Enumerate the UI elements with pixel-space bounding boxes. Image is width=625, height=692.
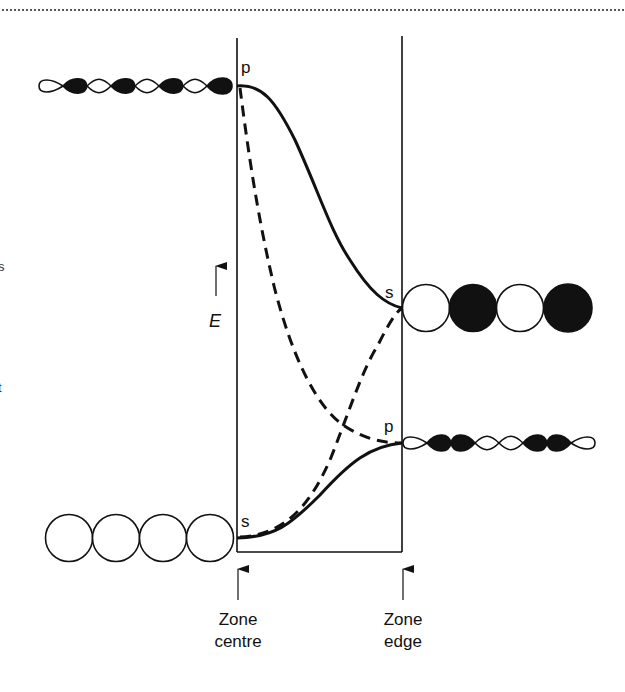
s-orbital-white bbox=[46, 515, 93, 562]
s-orbital-white bbox=[187, 515, 234, 562]
p-lobe-white bbox=[135, 79, 159, 93]
zone-edge-caption-line1: Zone bbox=[363, 609, 443, 631]
s-orbital-white bbox=[497, 285, 544, 332]
edge-s-orbital-chain bbox=[403, 284, 593, 332]
p-lobe-black bbox=[159, 79, 183, 93]
s-orbital-black bbox=[544, 284, 592, 332]
p-lobe-black bbox=[451, 435, 475, 451]
p-lobe-white bbox=[499, 436, 523, 450]
s-orbital-white bbox=[93, 515, 140, 562]
p-lobe-black bbox=[427, 435, 451, 451]
p-lobe-black bbox=[111, 79, 135, 93]
s-orbital-white bbox=[403, 285, 450, 332]
centre-s-orbital-chain bbox=[46, 515, 234, 562]
s-orbital-black bbox=[450, 285, 497, 332]
s-band-solid-curve bbox=[237, 443, 402, 538]
zone-centre-caption-line1: Zone bbox=[198, 609, 278, 631]
p-lobe-black bbox=[547, 435, 571, 451]
zone-centre-caption: Zone centre bbox=[198, 609, 278, 653]
p-band-solid-curve bbox=[237, 86, 402, 308]
zone-edge-caption-line2: edge bbox=[363, 631, 443, 653]
s-orbital-white bbox=[140, 515, 187, 562]
edge-lower-level-label: p bbox=[384, 418, 393, 435]
centre-bottom-level-label: s bbox=[241, 513, 250, 530]
p-lobe-white bbox=[475, 436, 499, 450]
p-lobe-white bbox=[87, 79, 111, 93]
p-lobe-white bbox=[183, 79, 207, 93]
p-band-dashed-curve bbox=[240, 88, 402, 443]
band-diagram bbox=[0, 0, 625, 692]
energy-axis-label: E bbox=[209, 311, 221, 332]
p-lobe-white bbox=[403, 437, 427, 449]
edge-p-orbital-chain bbox=[403, 435, 595, 451]
centre-top-level-label: p bbox=[241, 59, 250, 76]
p-lobe-white bbox=[39, 80, 63, 92]
zone-edge-caption: Zone edge bbox=[363, 609, 443, 653]
p-lobe-black bbox=[523, 435, 547, 451]
zone-centre-caption-line2: centre bbox=[198, 631, 278, 653]
p-lobe-white bbox=[571, 437, 595, 449]
centre-p-orbital-chain bbox=[39, 78, 232, 94]
s-band-dashed-curve bbox=[240, 308, 402, 537]
p-lobe-black bbox=[63, 79, 87, 93]
edge-upper-level-label: s bbox=[385, 284, 394, 301]
p-lobe-black bbox=[207, 78, 232, 94]
